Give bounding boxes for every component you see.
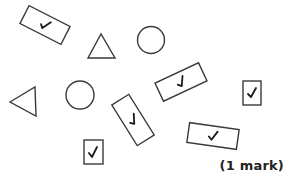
tick-icon [175, 76, 186, 88]
triangle-1 [88, 34, 115, 58]
rectangle-6 [187, 123, 239, 150]
rectangle-1 [20, 6, 70, 45]
rectangle-2 [155, 63, 207, 101]
tick-icon [127, 114, 139, 126]
circle-2 [66, 81, 94, 109]
rectangle-5 [84, 140, 103, 164]
mark-label: (1 mark) [220, 158, 284, 173]
triangle-2 [10, 87, 36, 116]
tick-icon [40, 19, 51, 31]
tick-icon [248, 88, 256, 97]
shapes-canvas [0, 0, 292, 182]
tick-icon [89, 147, 97, 157]
tick-icon [208, 130, 217, 140]
rectangle-3 [243, 81, 261, 105]
rectangle-4 [112, 94, 154, 145]
circle-1 [138, 27, 165, 54]
